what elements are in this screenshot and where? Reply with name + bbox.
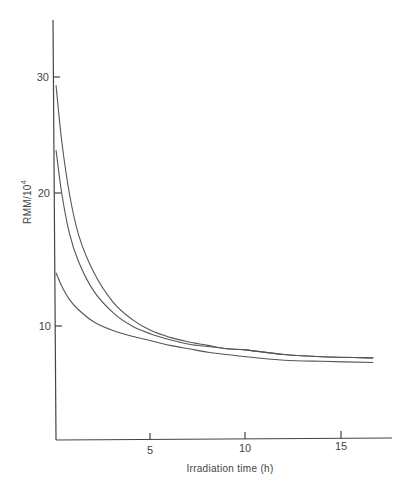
y-tick-label-20: 20 — [38, 187, 50, 199]
x-tick-label-10: 10 — [239, 442, 251, 454]
curve-lower — [56, 273, 373, 363]
y-axis-title-text: RMM/104 — [20, 180, 33, 224]
y-axis-line — [53, 20, 56, 440]
y-tick-label-10: 10 — [39, 320, 51, 332]
x-tick-label-5: 5 — [147, 444, 153, 456]
y-axis-title-superscript: 4 — [20, 180, 27, 184]
y-axis-title-main: RMM/10 — [22, 184, 33, 224]
curve-group — [56, 85, 373, 362]
x-tick-label-15: 15 — [335, 440, 347, 452]
curve-upper — [56, 85, 373, 358]
x-tick-group: 5 10 15 — [147, 431, 347, 456]
x-axis-title: Irradiation time (h) — [186, 463, 273, 474]
chart-canvas: 30 20 10 5 10 15 Irradiation time (h) RM… — [0, 0, 412, 492]
y-axis-title: RMM/104 — [20, 180, 33, 224]
y-tick-label-30: 30 — [37, 71, 49, 83]
